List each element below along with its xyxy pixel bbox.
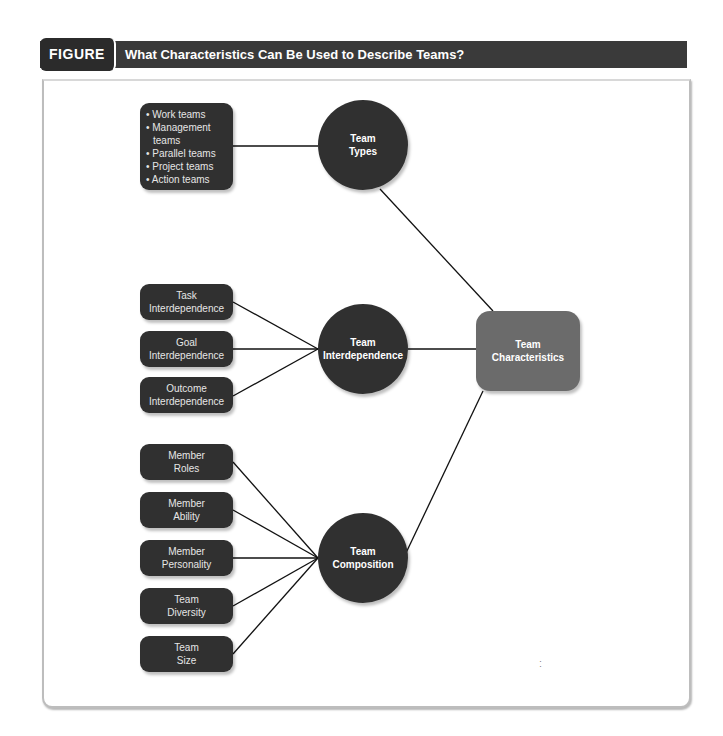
node-label: Types [349,145,377,158]
list-item: • Project teams [146,160,213,173]
list-item: • Parallel teams [146,147,216,160]
box-label: Team [174,593,198,606]
box-label: Interdependence [149,395,224,408]
box-label: Diversity [167,606,205,619]
box-label: Ability [173,510,200,523]
team-interdependence-node: Team Interdependence [318,304,408,394]
team-size-box: Team Size [140,636,233,672]
outcome-interdependence-box: Outcome Interdependence [140,377,233,413]
task-interdependence-box: Task Interdependence [140,284,233,320]
box-label: Goal [176,336,197,349]
node-label: Composition [332,558,393,571]
box-label: Interdependence [149,349,224,362]
box-label: Size [177,654,196,667]
node-label: Team [350,545,375,558]
team-characteristics-node: Team Characteristics [476,311,580,391]
node-label: Team [350,336,375,349]
box-label: Outcome [166,382,207,395]
box-label: Task [176,289,197,302]
box-label: Interdependence [149,302,224,315]
node-label: Team [515,338,540,351]
scan-artifact: ·· [539,659,542,669]
box-label: Member [168,497,205,510]
member-ability-box: Member Ability [140,492,233,528]
list-item: • Work teams [146,108,205,121]
box-label: Roles [174,462,200,475]
team-composition-node: Team Composition [318,513,408,603]
team-types-list: • Work teams • Management teams • Parall… [140,103,233,190]
team-types-node: Team Types [318,100,408,190]
list-item: • Management [146,121,211,134]
box-label: Personality [162,558,211,571]
node-label: Characteristics [492,351,564,364]
node-label: Interdependence [323,349,403,362]
list-item: • Action teams [146,173,210,186]
box-label: Member [168,449,205,462]
goal-interdependence-box: Goal Interdependence [140,331,233,367]
box-label: Team [174,641,198,654]
member-roles-box: Member Roles [140,444,233,480]
list-item: teams [146,134,180,147]
team-diversity-box: Team Diversity [140,588,233,624]
member-personality-box: Member Personality [140,540,233,576]
node-label: Team [350,132,375,145]
box-label: Member [168,545,205,558]
